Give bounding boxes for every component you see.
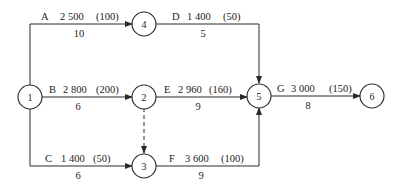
label-f: F 3 600 (100) 9 [169, 153, 244, 181]
network-diagram: A 2 500 (100) 10 B 2 800 (200) 6 C 1 400… [0, 0, 395, 193]
label-g: G 3 000 (150) 8 [277, 83, 352, 111]
svg-text:(100): (100) [96, 11, 119, 23]
svg-text:2: 2 [142, 92, 147, 103]
svg-text:8: 8 [305, 100, 310, 111]
svg-text:2 800: 2 800 [63, 84, 87, 95]
svg-text:1: 1 [28, 92, 33, 103]
label-c: C 1 400 (50) 6 [45, 153, 111, 181]
svg-text:(50): (50) [93, 153, 111, 165]
svg-text:(100): (100) [221, 153, 244, 165]
svg-text:6: 6 [75, 101, 80, 112]
svg-text:6: 6 [75, 170, 80, 181]
node-5: 5 [247, 84, 271, 108]
label-d: D 1 400 (50) 5 [172, 11, 241, 39]
label-e: E 2 960 (160) 9 [164, 84, 232, 112]
svg-text:1 400: 1 400 [187, 11, 211, 22]
node-4: 4 [132, 12, 156, 36]
node-2: 2 [132, 85, 156, 109]
svg-text:5: 5 [257, 91, 262, 102]
label-a: A 2 500 (100) 10 [41, 11, 119, 39]
edge-d [156, 24, 259, 83]
svg-text:6: 6 [370, 91, 375, 102]
svg-text:3: 3 [142, 161, 147, 172]
svg-text:G: G [277, 83, 285, 94]
svg-text:D: D [172, 11, 180, 22]
svg-text:9: 9 [198, 170, 203, 181]
svg-text:3 600: 3 600 [185, 153, 209, 164]
node-3: 3 [132, 154, 156, 178]
svg-text:5: 5 [200, 28, 205, 39]
svg-text:F: F [169, 153, 175, 164]
svg-text:10: 10 [74, 28, 85, 39]
svg-text:(200): (200) [96, 84, 119, 96]
svg-text:A: A [41, 11, 49, 22]
svg-text:C: C [45, 153, 52, 164]
svg-text:3 000: 3 000 [291, 83, 315, 94]
svg-text:2 960: 2 960 [178, 84, 202, 95]
svg-text:9: 9 [195, 101, 200, 112]
label-b: B 2 800 (200) 6 [49, 84, 119, 112]
svg-text:2 500: 2 500 [60, 11, 84, 22]
svg-text:(150): (150) [329, 83, 352, 95]
node-1: 1 [18, 85, 42, 109]
svg-text:E: E [164, 84, 170, 95]
svg-text:(160): (160) [209, 84, 232, 96]
svg-text:(50): (50) [223, 11, 241, 23]
svg-text:4: 4 [142, 19, 147, 30]
svg-text:B: B [49, 84, 56, 95]
node-6: 6 [360, 84, 384, 108]
svg-text:1 400: 1 400 [61, 153, 85, 164]
